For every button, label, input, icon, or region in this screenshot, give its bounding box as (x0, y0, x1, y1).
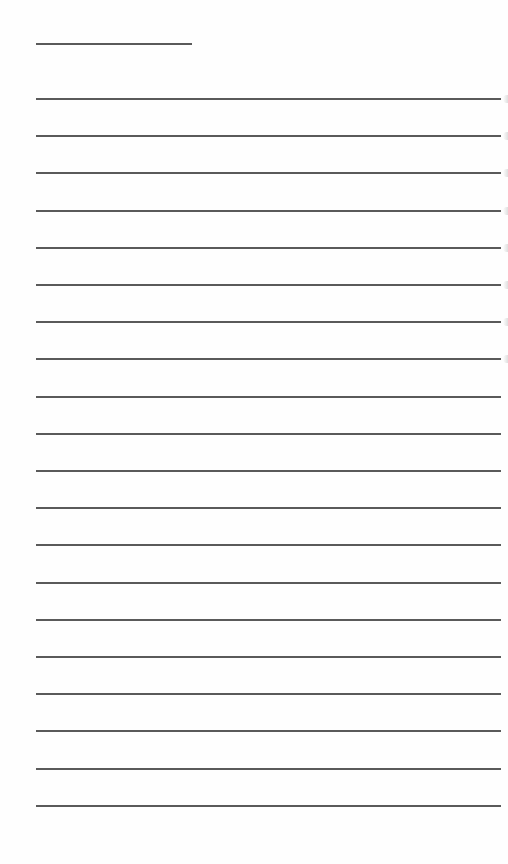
ruled-line (36, 619, 501, 621)
edge-mark (503, 169, 508, 177)
ruled-line (36, 172, 501, 174)
edge-mark (503, 281, 508, 289)
edge-mark (503, 318, 508, 326)
edge-mark (503, 95, 508, 103)
title-line (36, 43, 192, 45)
ruled-line (36, 582, 501, 584)
edge-mark (503, 244, 508, 252)
edge-mark (503, 132, 508, 140)
ruled-line (36, 470, 501, 472)
ruled-line (36, 210, 501, 212)
ruled-line (36, 247, 501, 249)
ruled-line (36, 768, 501, 770)
edge-mark (503, 207, 508, 215)
ruled-line (36, 507, 501, 509)
ruled-line (36, 805, 501, 807)
ruled-line (36, 730, 501, 732)
ruled-line (36, 135, 501, 137)
ruled-line (36, 693, 501, 695)
ruled-line (36, 656, 501, 658)
lined-page (0, 0, 508, 864)
ruled-line (36, 396, 501, 398)
ruled-line (36, 358, 501, 360)
ruled-line (36, 98, 501, 100)
ruled-line (36, 433, 501, 435)
ruled-line (36, 284, 501, 286)
ruled-line (36, 321, 501, 323)
edge-mark (503, 355, 508, 363)
ruled-line (36, 544, 501, 546)
